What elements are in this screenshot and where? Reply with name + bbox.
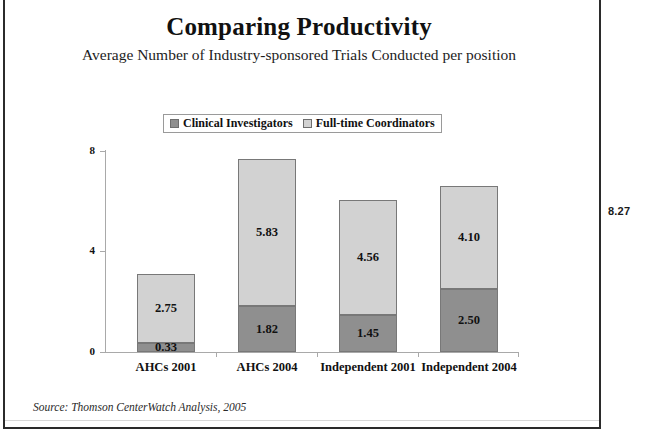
legend-item-full-time-coordinators: Full-time Coordinators (303, 116, 435, 131)
chart-legend: Clinical Investigators Full-time Coordin… (163, 114, 442, 133)
bar-segment-clinical-investigators: 1.45 (339, 315, 397, 352)
chart-title: Comparing Productivity (0, 13, 598, 41)
legend-swatch-icon-clinical-investigators (170, 119, 179, 128)
y-tick-mark-0 (100, 352, 105, 353)
page-hairline-divider (5, 420, 599, 421)
legend-item-clinical-investigators: Clinical Investigators (170, 116, 293, 131)
y-tick-label-4: 4 (61, 244, 95, 256)
bar-value-label: 2.50 (458, 314, 480, 327)
y-tick-label-8: 8 (61, 144, 95, 156)
x-tick-mark-2 (317, 352, 318, 357)
bar-segment-clinical-investigators: 1.82 (238, 306, 296, 352)
bar-value-label: 1.82 (256, 323, 278, 336)
legend-label-full-time-coordinators: Full-time Coordinators (316, 116, 435, 131)
chart-subtitle: Average Number of Industry-sponsored Tri… (0, 46, 598, 64)
bar-value-label: 5.83 (256, 226, 278, 239)
bar-segment-full-time-coordinators: 5.83 (238, 159, 296, 306)
bar-segment-full-time-coordinators: 4.56 (339, 200, 397, 315)
x-tick-mark-4 (518, 352, 519, 357)
y-tick-label-0: 0 (61, 345, 95, 357)
bar-segment-full-time-coordinators: 4.10 (440, 186, 498, 289)
x-axis-category-label-independent-2004: Independent 2004 (404, 360, 534, 375)
plot-area: 0.33 2.75 1.82 5.83 1.45 4.56 2.50 4.10 (105, 151, 519, 352)
bar-segment-clinical-investigators: 2.50 (440, 289, 498, 352)
bar-segment-clinical-investigators: 0.33 (137, 343, 195, 352)
bar-segment-full-time-coordinators: 2.75 (137, 274, 195, 343)
bar-value-label: 4.56 (357, 251, 379, 264)
bar-value-label: 2.75 (155, 302, 177, 315)
legend-label-clinical-investigators: Clinical Investigators (183, 116, 293, 131)
bar-value-label: 0.33 (155, 341, 177, 354)
bar-value-label: 1.45 (357, 327, 379, 340)
x-tick-mark-1 (216, 352, 217, 357)
x-tick-mark-3 (418, 352, 419, 357)
legend-swatch-icon-full-time-coordinators (303, 119, 312, 128)
source-note: Source: Thomson CenterWatch Analysis, 20… (33, 401, 246, 413)
margin-figure-number: 8.27 (608, 205, 653, 217)
bar-value-label: 4.10 (458, 231, 480, 244)
